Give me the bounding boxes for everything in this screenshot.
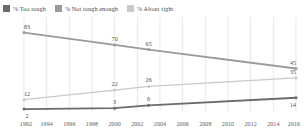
data-point[interactable] [113, 89, 116, 92]
data-label: 65 [146, 41, 152, 48]
data-label: 83 [24, 24, 30, 31]
data-label: 3 [113, 99, 116, 106]
chart-legend: % Too tough % Not tough enough % About r… [0, 0, 308, 16]
data-point[interactable] [295, 96, 298, 99]
data-label: 70 [112, 36, 118, 43]
x-tick-label: 2002 [131, 120, 143, 128]
legend-swatch-icon [55, 5, 62, 12]
x-tick-label: 1998 [86, 120, 98, 128]
data-point[interactable] [113, 43, 116, 46]
legend-swatch-icon [3, 5, 10, 12]
data-point[interactable] [23, 31, 26, 34]
data-label: 26 [146, 77, 152, 84]
data-point[interactable] [295, 76, 298, 79]
chart-container: % Too tough % Not tough enough % About r… [0, 0, 308, 137]
x-tick-label: 2014 [267, 120, 279, 128]
x-tick-label: 1996 [63, 120, 75, 128]
data-label: 12 [24, 91, 30, 98]
data-point[interactable] [147, 48, 150, 51]
data-point[interactable] [23, 98, 26, 101]
legend-label: % About right [137, 5, 173, 12]
legend-item-not-tough-enough[interactable]: % Not tough enough [55, 5, 118, 12]
data-point[interactable] [23, 108, 26, 111]
legend-item-about-right[interactable]: % About right [127, 5, 173, 12]
x-tick-label: 2010 [222, 120, 234, 128]
data-point[interactable] [147, 104, 150, 107]
x-tick-label: 2006 [176, 120, 188, 128]
legend-item-too-tough[interactable]: % Too tough [3, 5, 46, 12]
x-tick-label: 1994 [40, 120, 52, 128]
data-label: 35 [290, 69, 296, 76]
x-tick-label: 2008 [199, 120, 211, 128]
data-point[interactable] [113, 107, 116, 110]
x-tick-label: 2000 [108, 120, 120, 128]
data-label: 45 [290, 60, 296, 67]
line-chart-svg [0, 17, 308, 120]
x-tick-label: 1992 [20, 120, 32, 128]
data-label: 14 [290, 102, 296, 109]
plot-area [0, 17, 308, 120]
x-tick-label: 2016 [288, 120, 300, 128]
x-axis: 1992199419961998200020022004200620082010… [0, 120, 308, 132]
legend-swatch-icon [127, 5, 134, 12]
x-tick-label: 2012 [244, 120, 256, 128]
x-tick-label: 2004 [154, 120, 166, 128]
data-label: 22 [112, 81, 118, 88]
legend-label: % Not tough enough [65, 5, 118, 12]
data-point[interactable] [147, 85, 150, 88]
data-label: 6 [147, 96, 150, 103]
legend-label: % Too tough [13, 5, 46, 12]
